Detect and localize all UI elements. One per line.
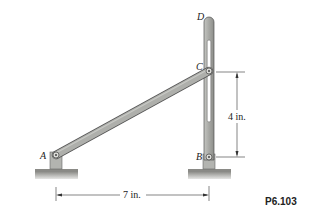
dimension-horizontal-label: 7 in. xyxy=(123,189,141,200)
dimension-vertical-label: 4 in. xyxy=(228,111,246,122)
slotted-member-bd xyxy=(204,17,214,160)
problem-number: P6.103 xyxy=(265,196,297,207)
pin-a xyxy=(53,152,59,158)
label-a: A xyxy=(39,150,47,161)
label-d: D xyxy=(196,11,205,22)
label-c: C xyxy=(196,61,203,72)
member-ac xyxy=(56,69,209,155)
pin-b xyxy=(206,154,212,160)
label-b: B xyxy=(196,151,202,162)
slot xyxy=(207,40,211,122)
mechanism-diagram: D C A B 4 in. 7 in. P6.103 xyxy=(0,0,312,221)
pin-c xyxy=(206,68,212,74)
